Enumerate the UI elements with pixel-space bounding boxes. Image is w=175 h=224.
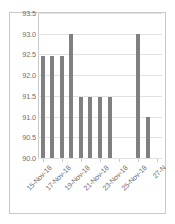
bar (98, 97, 102, 158)
bar (136, 34, 140, 158)
bar (69, 34, 73, 158)
chart-plot-frame: 93.593.092.592.091.591.090.590.0 15-Nov-… (9, 12, 166, 214)
plot-area (38, 13, 162, 159)
y-axis-tick-label: 92.5 (22, 50, 36, 59)
bar (41, 56, 45, 158)
y-axis: 93.593.092.592.091.591.090.590.0 (10, 13, 38, 159)
x-axis-tick-mark (81, 159, 82, 162)
y-axis-tick-label: 90.0 (22, 154, 36, 163)
bar (88, 97, 92, 158)
x-axis-tick-mark (119, 159, 120, 162)
bar-chart: 93.593.092.592.091.591.090.590.0 15-Nov-… (0, 0, 175, 224)
bar (50, 56, 54, 158)
y-axis-tick-label: 93.5 (22, 9, 36, 18)
bar (60, 56, 64, 158)
x-axis-tick-mark (43, 159, 44, 162)
y-axis-tick-label: 91.0 (22, 112, 36, 121)
x-axis-tick-label: 27-N (152, 164, 168, 180)
gridline (38, 54, 162, 55)
gridline (38, 13, 162, 14)
gridline (38, 75, 162, 76)
x-axis-tick-mark (157, 159, 158, 162)
x-axis-tick-mark (62, 159, 63, 162)
x-axis-tick-mark (100, 159, 101, 162)
y-axis-tick-label: 92.0 (22, 71, 36, 80)
bar (108, 97, 112, 158)
y-axis-tick-label: 93.0 (22, 29, 36, 38)
y-axis-tick-label: 90.5 (22, 133, 36, 142)
bar (146, 117, 150, 158)
bar (79, 97, 83, 158)
x-axis-tick-mark (138, 159, 139, 162)
y-axis-tick-label: 91.5 (22, 91, 36, 100)
x-axis: 15-Nov-1817-Nov-1819-Nov-1821-Nov-1823-N… (38, 159, 165, 213)
gridline (38, 34, 162, 35)
